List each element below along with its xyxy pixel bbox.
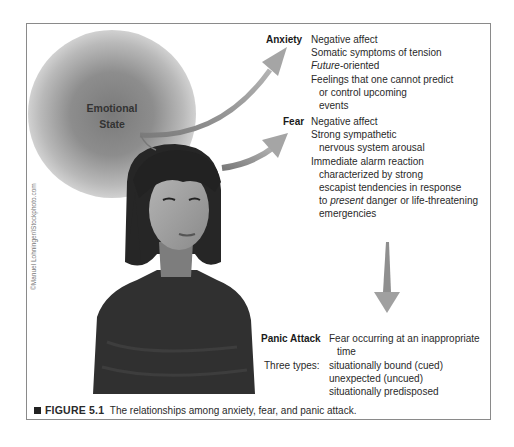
panic-definition: Fear occurring at an inappropriate time: [329, 332, 480, 358]
fear-item: nervous system arousal: [311, 141, 478, 154]
fear-item: characterized by strong: [311, 168, 478, 181]
anxiety-item: or control upcoming: [311, 86, 453, 99]
fear-item: Strong sympathetic: [311, 128, 478, 141]
present-italic: present: [330, 195, 363, 206]
fear-item-text: danger or life-threatening: [363, 195, 478, 206]
anxiety-item: Somatic symptoms of tension: [311, 46, 453, 59]
future-italic: Future: [311, 60, 340, 71]
arrow-to-panic-icon: [374, 242, 400, 313]
anxiety-label: Anxiety: [266, 34, 302, 45]
panic-type-item: unexpected (uncued): [329, 372, 443, 385]
anxiety-list: Negative affect Somatic symptoms of tens…: [311, 33, 453, 112]
photo-credit: ©Manuel Lohninger/iStockphoto.com: [30, 183, 37, 290]
panic-type-item: situationally bound (cued): [329, 359, 443, 372]
anxiety-item-text: -oriented: [340, 60, 379, 71]
caption-square-icon: [34, 407, 41, 414]
fear-item: Immediate alarm reaction: [311, 155, 478, 168]
panic-attack-label: Panic Attack: [261, 333, 321, 344]
anxiety-item: Future-oriented: [311, 59, 453, 72]
fear-list: Negative affect Strong sympathetic nervo…: [311, 115, 478, 221]
arrow-to-anxiety-icon: [140, 47, 287, 135]
anxiety-item: Negative affect: [311, 33, 453, 46]
panic-type-item: situationally predisposed: [329, 385, 443, 398]
fear-item: Negative affect: [311, 115, 478, 128]
branch-line: [141, 136, 156, 150]
fear-item-pre: to: [319, 195, 330, 206]
fear-item: to present danger or life-threatening: [311, 194, 478, 207]
three-types-label: Three types:: [264, 359, 320, 372]
caption-text: The relationships among anxiety, fear, a…: [110, 405, 357, 416]
figure-caption: FIGURE 5.1 The relationships among anxie…: [34, 404, 356, 416]
fear-item: emergencies: [311, 207, 478, 220]
anxiety-item: Feelings that one cannot predict: [311, 73, 453, 86]
fear-item: escapist tendencies in response: [311, 181, 478, 194]
figure-number: FIGURE 5.1: [45, 404, 104, 416]
anxiety-item: events: [311, 99, 453, 112]
panic-definition-line: Fear occurring at an inappropriate: [329, 332, 480, 345]
panic-definition-line: time: [329, 345, 480, 358]
fear-label: Fear: [283, 116, 304, 127]
arrow-to-fear-icon: [222, 133, 288, 168]
panic-types-list: situationally bound (cued) unexpected (u…: [329, 359, 443, 399]
